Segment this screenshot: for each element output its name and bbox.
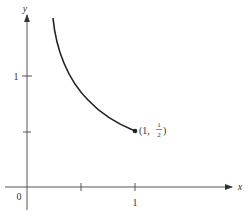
point-label-suffix: ) [163, 125, 166, 137]
chart-canvas: y x 0 1 1 (1, 1 2 ) [0, 0, 248, 216]
point-label-denominator: 2 [157, 131, 161, 139]
point-label-numerator: 1 [157, 121, 161, 129]
y-axis-label: y [22, 3, 28, 14]
point-label-prefix: (1, [139, 125, 150, 137]
x-axis-label: x [237, 181, 243, 192]
curve [53, 18, 135, 131]
origin-label: 0 [17, 191, 22, 202]
x-tick-label-1: 1 [133, 197, 138, 208]
chart: y x 0 1 1 (1, 1 2 ) [0, 0, 248, 216]
y-tick-label-1: 1 [14, 71, 19, 82]
endpoint-marker [133, 129, 138, 134]
